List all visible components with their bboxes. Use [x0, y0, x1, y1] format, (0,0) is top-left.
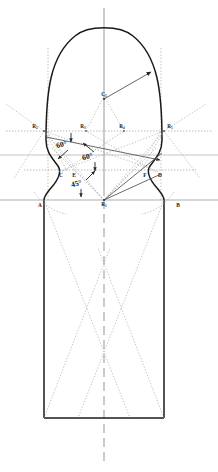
segment-R1-to-D: [104, 174, 161, 200]
label-R1-sub: 1: [105, 204, 107, 208]
label-angle-60-left: 60°: [55, 139, 67, 150]
dotted-horizontals: [6, 131, 212, 170]
chord-R1-to-right-shoulder: [104, 153, 162, 200]
body-diagonal-right-lower: [98, 248, 164, 418]
marker-R2: [43, 130, 45, 132]
label-C1-sub: 1: [105, 94, 107, 98]
reference-axes: [0, 155, 218, 200]
marker-R4: [123, 130, 125, 132]
ray-R2-to-neck-right: [44, 131, 160, 172]
ray-R5-to-R1: [104, 131, 164, 200]
label-R3-sub: 3: [84, 126, 86, 130]
label-point-B: B: [176, 202, 180, 208]
label-R2: R2: [32, 123, 38, 130]
body-diagonal-left: [44, 200, 130, 418]
label-angle-45: 45°: [70, 178, 83, 189]
label-R4-sub: 4: [123, 126, 125, 130]
label-R4: R4: [119, 123, 125, 130]
construction-drawing: A B C E F D R1 R2 R3 R4 R5: [0, 0, 218, 472]
label-R5-sub: 5: [171, 126, 173, 130]
label-point-D: D: [158, 172, 162, 178]
marker-R3: [85, 130, 87, 132]
dome-radius-line: [104, 72, 151, 99]
arc-right-wide: [104, 132, 160, 200]
label-R1: R1: [101, 201, 107, 208]
label-R2-sub: 2: [36, 126, 38, 130]
body-diagonal-right: [78, 200, 164, 418]
label-R5: R5: [167, 123, 173, 130]
label-point-A: A: [38, 202, 42, 208]
arc-near-B: [142, 192, 174, 214]
leader-45-up: [86, 171, 95, 180]
marker-R5: [163, 130, 165, 132]
label-angle-60-right: 60°: [81, 151, 94, 162]
ray-R3-to-C1: [86, 96, 104, 131]
radius-center-labels: R1 R2 R3 R4 R5 C1: [32, 91, 173, 208]
body-diagonal-left-lower: [44, 248, 110, 418]
label-C1: C1: [101, 91, 107, 98]
label-point-F: F: [143, 172, 147, 178]
construction-rays-dotted: [6, 96, 206, 418]
ray-R2-outward-up: [6, 104, 44, 131]
label-point-E: E: [72, 172, 76, 178]
label-point-C: C: [59, 172, 63, 178]
geometry-figure: A B C E F D R1 R2 R3 R4 R5: [0, 0, 218, 472]
label-R3: R3: [80, 123, 86, 130]
